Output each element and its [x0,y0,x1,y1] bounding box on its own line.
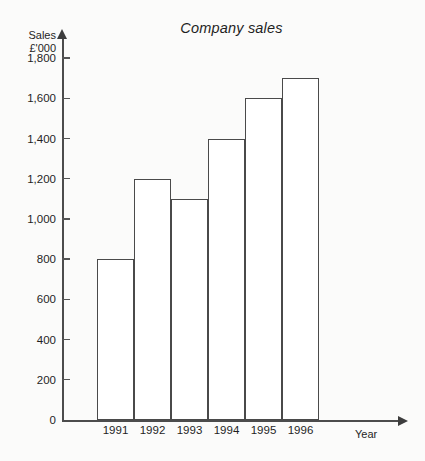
y-axis-label-line1: Sales [28,29,56,41]
bar-1994[interactable] [208,139,245,420]
y-axis-tick-label: 600 [8,293,56,305]
bar-chart: Company sales Sales £'000 02004006008001… [0,0,425,461]
x-axis-tick-label: 1991 [97,424,134,436]
y-axis-tick-label: 1,000 [8,213,56,225]
x-axis-tick-label: 1994 [208,424,245,436]
x-axis-tick-label: 1995 [245,424,282,436]
bar-1993[interactable] [171,199,208,420]
y-axis-label: Sales £'000 [0,29,56,54]
x-axis-tick-label: 1996 [282,424,319,436]
x-axis-tick-label: 1992 [134,424,171,436]
bar-1992[interactable] [134,179,171,420]
bar-1995[interactable] [245,98,282,420]
x-axis-label: Year [355,428,377,440]
y-axis-tick-label: 0 [8,414,56,426]
y-axis-tick-label: 1,200 [8,173,56,185]
x-axis-tick-label: 1993 [171,424,208,436]
y-axis-tick-label: 1,800 [8,52,56,64]
y-axis-tick-label: 200 [8,374,56,386]
plot-area [62,38,400,421]
y-axis-tick-label: 400 [8,334,56,346]
bar-1996[interactable] [282,78,319,420]
y-axis-tick-label: 800 [8,253,56,265]
bar-1991[interactable] [97,259,134,420]
y-axis-tick-label: 1,600 [8,92,56,104]
y-axis-tick-label: 1,400 [8,133,56,145]
